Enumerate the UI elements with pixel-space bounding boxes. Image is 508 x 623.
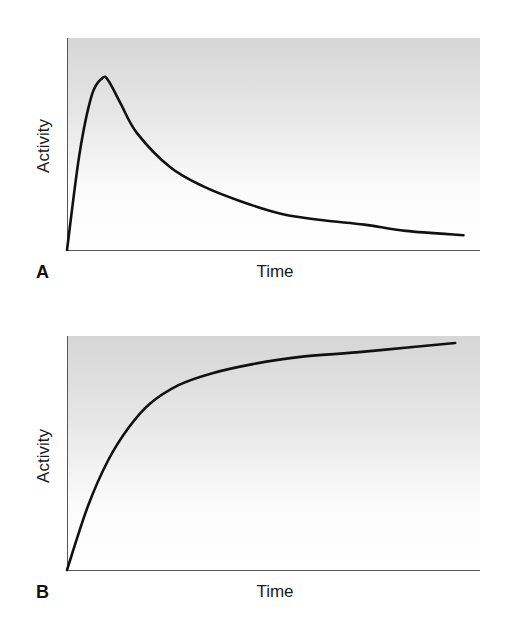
panel-a: Activity Time A	[0, 0, 508, 310]
chart-b: Activity Time B	[0, 310, 508, 623]
y-axis-label-a: Activity	[34, 119, 53, 173]
panel-letter-a: A	[36, 262, 49, 282]
plot-area-b	[67, 336, 480, 570]
y-axis-label-b: Activity	[34, 429, 53, 483]
x-axis-label-a: Time	[256, 262, 293, 281]
x-axis-label-b: Time	[256, 582, 293, 601]
plot-area-a	[67, 38, 480, 250]
panel-letter-b: B	[36, 582, 49, 602]
chart-a: Activity Time A	[0, 0, 508, 310]
panel-b: Activity Time B	[0, 310, 508, 623]
